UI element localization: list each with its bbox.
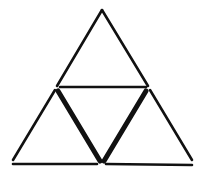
matchstick-inner-left (58, 91, 100, 161)
matchsticks-group (13, 10, 192, 165)
matchstick-bottom-right (106, 164, 192, 165)
matchstick-lower-right (150, 90, 192, 160)
matchstick-inner-right (104, 91, 146, 161)
matchstick-lower-left (13, 90, 55, 160)
matchstick-top-left (57, 10, 102, 86)
matchstick-triangle-diagram (0, 0, 205, 176)
matchstick-top-right (102, 10, 148, 86)
